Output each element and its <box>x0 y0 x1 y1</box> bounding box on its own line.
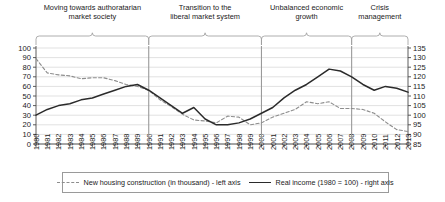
x-tick-label: 1984 <box>77 134 86 150</box>
x-tick-label: 1986 <box>99 134 108 150</box>
period-brace <box>261 33 351 45</box>
x-tick-label: 2013 <box>404 134 413 150</box>
x-tick-label: 2003 <box>291 134 300 150</box>
x-tick-label: 1983 <box>66 134 75 150</box>
y-tick-label-left: 30 <box>23 111 31 120</box>
y-tick-label-left: 50 <box>23 92 31 101</box>
x-tick-label: 2012 <box>393 134 402 150</box>
chart-legend: New housing construction (in thousand) -… <box>62 172 389 193</box>
y-tick-label-left: 70 <box>23 72 31 81</box>
x-tick-label: 1981 <box>43 134 52 150</box>
x-tick-label: 1987 <box>111 134 120 150</box>
legend-label-real-income: Real income (1980 = 100) - right axis <box>275 178 393 187</box>
x-tick-label: 2002 <box>280 134 289 150</box>
period-brace <box>352 33 408 45</box>
period-brace <box>149 33 262 45</box>
x-tick-label: 2010 <box>370 134 379 150</box>
x-tick-label: 1998 <box>235 134 244 150</box>
series-real-income <box>36 69 408 125</box>
x-tick-label: 1994 <box>190 134 199 150</box>
x-tick-label: 2006 <box>325 134 334 150</box>
y-tick-label-right: 95 <box>413 120 421 129</box>
x-tick-label: 1999 <box>246 134 255 150</box>
x-tick-label: 2001 <box>269 134 278 150</box>
y-tick-label-left: 10 <box>23 130 31 139</box>
legend-swatch-real-income <box>249 182 271 183</box>
legend-item-real-income: Real income (1980 = 100) - right axis <box>249 178 393 187</box>
legend-swatch-new-housing-construction <box>57 182 79 183</box>
x-tick-label: 2005 <box>314 134 323 150</box>
y-tick-label-right: 120 <box>413 72 426 81</box>
x-tick-label: 1988 <box>122 134 131 150</box>
y-tick-label-right: 135 <box>413 44 426 53</box>
period-brace <box>36 33 149 45</box>
x-tick-label: 2007 <box>336 134 345 150</box>
x-tick-label: 1991 <box>156 134 165 150</box>
y-tick-label-left: 90 <box>23 53 31 62</box>
y-tick-label-right: 85 <box>413 140 421 149</box>
y-tick-label-right: 130 <box>413 53 426 62</box>
y-tick-label-left: 100 <box>18 44 31 53</box>
x-tick-label: 1980 <box>32 134 41 150</box>
y-tick-label-right: 115 <box>413 82 425 91</box>
y-tick-label-right: 90 <box>413 130 421 139</box>
y-tick-label-right: 105 <box>413 101 426 110</box>
x-tick-label: 1985 <box>88 134 97 150</box>
y-tick-label-left: 0 <box>27 140 31 149</box>
x-tick-label: 1993 <box>178 134 187 150</box>
x-tick-label: 1989 <box>133 134 142 150</box>
y-tick-label-left: 20 <box>23 120 31 129</box>
x-tick-label: 1996 <box>212 134 221 150</box>
y-tick-label-left: 40 <box>23 101 31 110</box>
y-tick-label-right: 110 <box>413 92 425 101</box>
chart-container: Moving towards authoratarian market soci… <box>0 0 445 202</box>
legend-item-new-housing-construction: New housing construction (in thousand) -… <box>57 178 240 187</box>
x-tick-label: 2011 <box>381 134 390 150</box>
legend-label-new-housing-construction: New housing construction (in thousand) -… <box>83 178 240 187</box>
y-tick-label-left: 80 <box>23 63 31 72</box>
x-tick-label: 1982 <box>54 134 63 150</box>
x-tick-label: 1992 <box>167 134 176 150</box>
y-tick-label-left: 60 <box>23 82 31 91</box>
x-tick-label: 2004 <box>302 134 311 150</box>
x-tick-label: 2009 <box>359 134 368 150</box>
y-tick-label-right: 100 <box>413 111 426 120</box>
y-tick-label-right: 125 <box>413 63 426 72</box>
x-tick-label: 1997 <box>223 134 232 150</box>
series-new-housing-construction <box>36 59 408 132</box>
x-tick-label: 1995 <box>201 134 210 150</box>
